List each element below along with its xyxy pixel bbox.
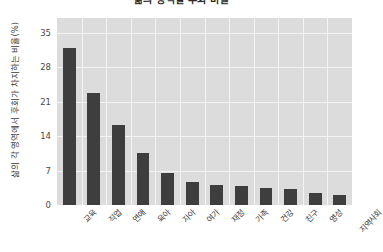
bar bbox=[112, 125, 125, 205]
x-axis-tick-label: 영성 bbox=[327, 207, 345, 225]
bar bbox=[210, 185, 223, 205]
x-axis-tick-label: 육아 bbox=[155, 207, 173, 225]
x-axis-ticks: 교육직업연애육아자아여가재정가족건강친구영성지역사회 bbox=[57, 207, 352, 252]
x-axis-tick-label: 연애 bbox=[131, 207, 149, 225]
x-axis-tick-label: 건강 bbox=[278, 207, 296, 225]
y-axis-ticks: 0714212835 bbox=[0, 18, 51, 205]
x-axis-tick-label: 직업 bbox=[106, 207, 124, 225]
chart-title: 삶의 영역별 후회 비율 bbox=[0, 0, 363, 6]
y-axis-tick-label: 35 bbox=[7, 28, 51, 38]
bar bbox=[333, 195, 346, 205]
bar bbox=[284, 189, 297, 205]
bar bbox=[186, 182, 199, 205]
x-axis-tick-label: 가족 bbox=[253, 207, 271, 225]
bar bbox=[260, 188, 273, 205]
y-axis-tick-label: 14 bbox=[7, 131, 51, 141]
plot-area bbox=[57, 18, 352, 205]
bar bbox=[137, 153, 150, 205]
bar bbox=[235, 186, 248, 205]
x-axis-tick-label: 자아 bbox=[180, 207, 198, 225]
x-axis-tick-label: 재정 bbox=[229, 207, 247, 225]
bar bbox=[63, 48, 76, 205]
x-axis-tick-label: 교육 bbox=[81, 207, 99, 225]
y-axis-tick-label: 28 bbox=[7, 62, 51, 72]
bar bbox=[161, 173, 174, 205]
x-axis-tick-label: 지역사회 bbox=[356, 207, 383, 235]
x-axis-tick-label: 여가 bbox=[204, 207, 222, 225]
y-axis-tick-label: 7 bbox=[7, 166, 51, 176]
x-axis-tick-label: 친구 bbox=[303, 207, 321, 225]
y-axis-tick-label: 0 bbox=[7, 200, 51, 210]
y-axis-tick-label: 21 bbox=[7, 97, 51, 107]
bars-layer bbox=[57, 18, 352, 205]
bar bbox=[87, 93, 100, 205]
bar bbox=[309, 193, 322, 205]
